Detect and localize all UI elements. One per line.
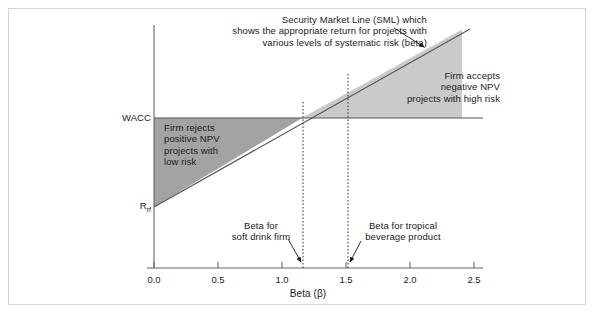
x-tick-label-2: 1.0 <box>262 274 302 285</box>
soft-drink-beta-annotation: Beta forsoft drink firm <box>216 220 306 243</box>
tropical-beverage-beta-annotation: Beta for tropicalbeverage product <box>348 220 458 243</box>
x-tick-label-1: 0.5 <box>198 274 238 285</box>
x-tick-label-0: 0.0 <box>134 274 174 285</box>
x-tick-label-3: 1.5 <box>326 274 366 285</box>
wacc-axis-label: WACC <box>113 112 151 123</box>
reject-region-label: Firm rejectspositive NPVprojects withlow… <box>164 122 284 168</box>
tropical-annotation-arrow <box>350 241 361 262</box>
rf-subscript: rf <box>147 206 151 213</box>
x-tick-label-4: 2.0 <box>390 274 430 285</box>
x-axis-ticks <box>154 262 474 268</box>
x-axis-title: Beta (β) <box>248 288 368 299</box>
x-tick-label-5: 2.5 <box>454 274 494 285</box>
sml-annotation: Security Market Line (SML) whichshows th… <box>175 14 427 48</box>
accept-region-label: Firm acceptsnegative NPVprojects with hi… <box>330 70 500 104</box>
risk-free-rate-axis-label: Rrf <box>118 200 151 215</box>
